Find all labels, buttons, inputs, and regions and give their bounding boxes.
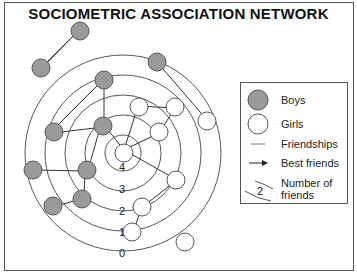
ring-label-2: 2 bbox=[119, 205, 125, 217]
girl-node bbox=[167, 171, 185, 189]
girls-legend-icon bbox=[248, 114, 268, 134]
ring-label-4: 4 bbox=[119, 161, 125, 173]
legend-best-friends-label: Best friends bbox=[281, 157, 339, 169]
legend-boys-label: Boys bbox=[281, 94, 305, 106]
boy-node bbox=[78, 161, 96, 179]
girl-node bbox=[166, 98, 184, 116]
boy-node bbox=[32, 59, 50, 77]
boy-node bbox=[71, 22, 89, 40]
legend-sample-number: 2 bbox=[257, 185, 263, 197]
girl-node bbox=[115, 144, 133, 162]
boy-node bbox=[44, 197, 62, 215]
legend-girls-label: Girls bbox=[281, 118, 304, 130]
girl-node bbox=[176, 233, 194, 251]
ring-label-3: 3 bbox=[119, 183, 125, 195]
boys-legend-icon bbox=[248, 90, 268, 110]
boy-node bbox=[94, 117, 112, 135]
boy-node bbox=[24, 161, 42, 179]
girl-node bbox=[198, 112, 216, 130]
boys-nodes bbox=[24, 22, 166, 215]
boy-node bbox=[45, 123, 63, 141]
legend-friends-label: friends bbox=[281, 189, 314, 201]
ring-label-0: 0 bbox=[119, 247, 125, 259]
girl-node bbox=[133, 198, 151, 216]
girl-node bbox=[130, 98, 148, 116]
girl-node bbox=[123, 223, 141, 241]
legend-number-of-friends-label: Number of bbox=[281, 177, 332, 189]
legend-friendships-label: Friendships bbox=[281, 138, 338, 150]
girl-node bbox=[150, 123, 168, 141]
boy-node bbox=[148, 53, 166, 71]
girls-nodes bbox=[115, 98, 216, 251]
ring-label-1: 1 bbox=[119, 226, 125, 238]
legend: Boys Girls Friendships Best friends Numb… bbox=[240, 82, 348, 204]
boy-node bbox=[95, 71, 113, 89]
boy-node bbox=[73, 190, 91, 208]
